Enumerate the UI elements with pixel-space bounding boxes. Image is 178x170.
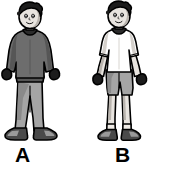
figure-a-drawing [0, 0, 89, 145]
figure-b-label: B [78, 142, 167, 168]
figure-a-shoe-right [33, 128, 57, 140]
figure-b-hand-right [136, 74, 146, 85]
figure-b-pupil-left [114, 15, 116, 17]
figure-a-pupil-right [32, 15, 34, 17]
figure-b-drawing [89, 0, 178, 145]
figure-a-glove-right [49, 69, 59, 80]
figure-a-glove-left [2, 69, 12, 80]
illustration-canvas: A B [0, 0, 178, 170]
figure-a-pupil-left [25, 15, 27, 17]
figure-a-label: A [0, 142, 67, 168]
figure-b [89, 0, 178, 145]
figure-a [0, 0, 89, 145]
figure-b-pupil-right [121, 15, 123, 17]
figure-b-hand-left [93, 74, 103, 85]
